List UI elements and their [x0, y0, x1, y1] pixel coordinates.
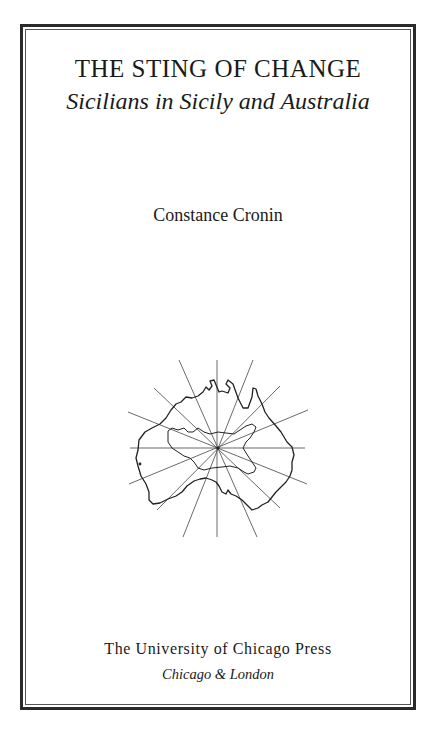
author-name: Constance Cronin	[0, 203, 436, 227]
title-page: THE STING OF CHANGE Sicilians in Sicily …	[0, 0, 436, 734]
map-mark-dot	[139, 463, 142, 466]
australia-map-icon	[120, 350, 320, 550]
book-title: THE STING OF CHANGE	[0, 54, 436, 84]
publication-place: Chicago & London	[0, 664, 436, 684]
inner-region-outline	[168, 424, 256, 474]
compass-center-dot	[216, 446, 219, 449]
australia-outline	[136, 380, 294, 510]
book-subtitle: Sicilians in Sicily and Australia	[0, 86, 436, 116]
publisher-name: The University of Chicago Press	[0, 639, 436, 659]
